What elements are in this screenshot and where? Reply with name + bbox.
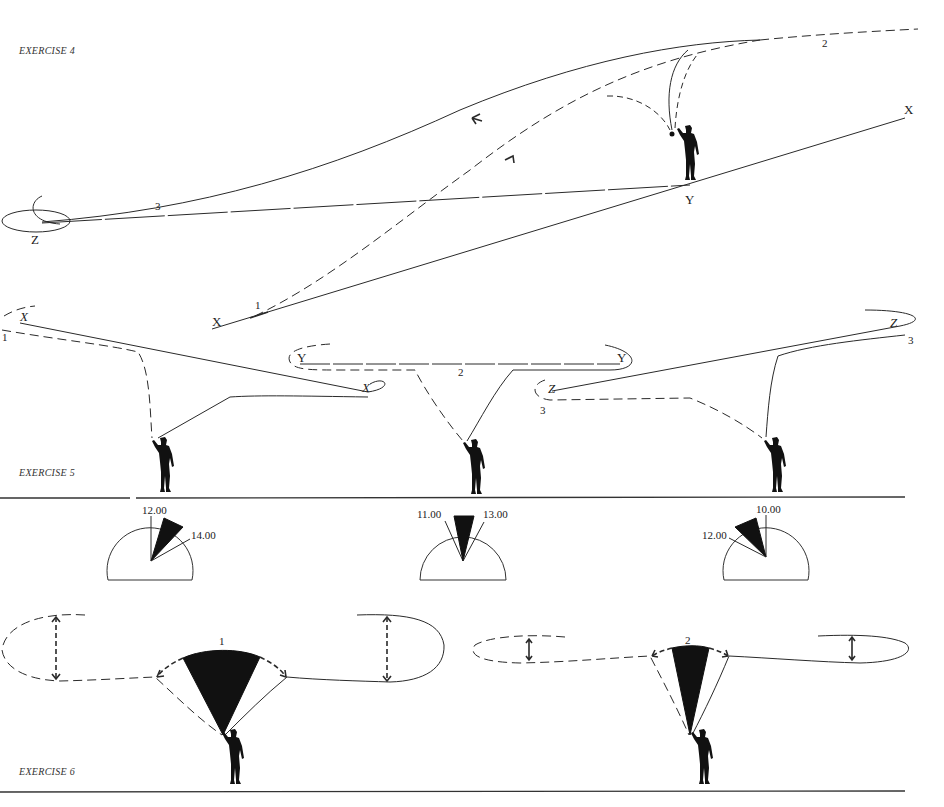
cast-2: Y Y 2 — [289, 344, 632, 494]
dial-3-start: 10.00 — [756, 503, 781, 515]
exercise-4-title: EXERCISE 4 — [18, 45, 75, 56]
label-cast-3-right: 3 — [908, 334, 914, 346]
cast-1: X X 1 — [2, 306, 385, 492]
angler-figure-2 — [463, 439, 485, 494]
arrow-forward-cast-icon — [505, 156, 514, 163]
cast-1-solid-line — [20, 323, 385, 438]
label-line-1: 1 — [255, 299, 261, 311]
casting-exercises-diagram: EXERCISE 4 X Y Z X 1 2 3 EXERCISE 5 — [0, 0, 944, 807]
dial-1-end: 14.00 — [191, 529, 216, 541]
cast-3-solid-rod — [766, 335, 905, 437]
dial-3-end: 12.00 — [702, 529, 727, 541]
cast-6-2-back-loop — [473, 636, 689, 735]
rod-arc-solid — [669, 50, 688, 130]
angler-figure-6-1 — [222, 729, 244, 784]
dial-1-start: 12.00 — [142, 504, 167, 516]
line-3-lower — [42, 185, 690, 223]
line-2-top — [760, 29, 918, 40]
cast-6-1-back-loop — [2, 615, 222, 735]
cast-2-dashed-line — [289, 344, 463, 441]
dial-2-end: 13.00 — [483, 508, 508, 520]
cast-3: Z Z 3 3 — [535, 310, 915, 492]
rod-arc-dashed — [675, 55, 697, 128]
angler-figure-1 — [152, 437, 174, 492]
cast-3-solid-upper — [552, 310, 915, 391]
arrow-back-cast-icon — [472, 114, 482, 124]
exercise-4: EXERCISE 4 X Y Z X 1 2 3 — [2, 29, 918, 329]
label-z: Z — [31, 232, 39, 247]
dial-2-start: 11.00 — [417, 508, 442, 520]
exercise-5-title: EXERCISE 5 — [18, 467, 75, 478]
label-cast-6-1: 1 — [219, 635, 225, 647]
loop-height-arrow-right-2-icon — [849, 637, 855, 660]
label-x-1b: X — [361, 380, 371, 395]
label-cast-3-left: 3 — [540, 404, 546, 416]
label-line-3: 3 — [155, 200, 161, 212]
rod-arc-back — [607, 96, 670, 130]
reel-icon — [670, 132, 675, 137]
cast-6-2-front-loop — [692, 635, 909, 735]
label-cast-2: 2 — [458, 366, 464, 378]
label-cast-1: 1 — [2, 331, 8, 343]
cast-6-1: 1 — [2, 615, 444, 784]
label-x-lower: X — [212, 314, 222, 329]
label-y-2b: Y — [617, 350, 627, 365]
angler-figure-3 — [764, 437, 786, 492]
label-z-3b: Z — [890, 315, 898, 330]
line-1-start — [250, 312, 268, 318]
narrow-rod-arc — [672, 646, 709, 735]
ground-line-xx — [212, 118, 905, 329]
label-x-right: X — [904, 102, 914, 117]
clock-dial-3: 10.00 12.00 — [702, 503, 809, 580]
cast-6-1-front-loop — [225, 615, 444, 735]
exercise-6: EXERCISE 6 1 2 — [0, 615, 909, 792]
label-y-2a: Y — [297, 350, 307, 365]
ground-line-6 — [0, 791, 905, 792]
angler-figure — [677, 125, 699, 180]
cast-6-2: 2 — [473, 634, 908, 784]
angler-figure-6-2 — [691, 729, 713, 784]
label-x-1a: X — [19, 309, 29, 324]
clock-dial-1: 12.00 14.00 — [107, 504, 216, 580]
exercise-5: EXERCISE 5 X X 1 Y Y 2 Z — [0, 306, 915, 580]
label-y-angler: Y — [685, 192, 695, 207]
line-forward-cast — [255, 40, 760, 316]
ground-line-5 — [0, 497, 905, 498]
clock-dial-2: 11.00 13.00 — [417, 508, 508, 580]
label-cast-6-2: 2 — [685, 634, 691, 646]
loop-height-arrow-left-2-icon — [526, 639, 532, 660]
exercise-6-title: EXERCISE 6 — [18, 766, 75, 777]
wide-rod-arc — [183, 650, 260, 735]
label-line-2: 2 — [822, 37, 828, 49]
label-z-3a: Z — [548, 381, 556, 396]
cast-3-dashed-line — [535, 380, 762, 438]
cast-1-dashed-line — [2, 330, 152, 438]
